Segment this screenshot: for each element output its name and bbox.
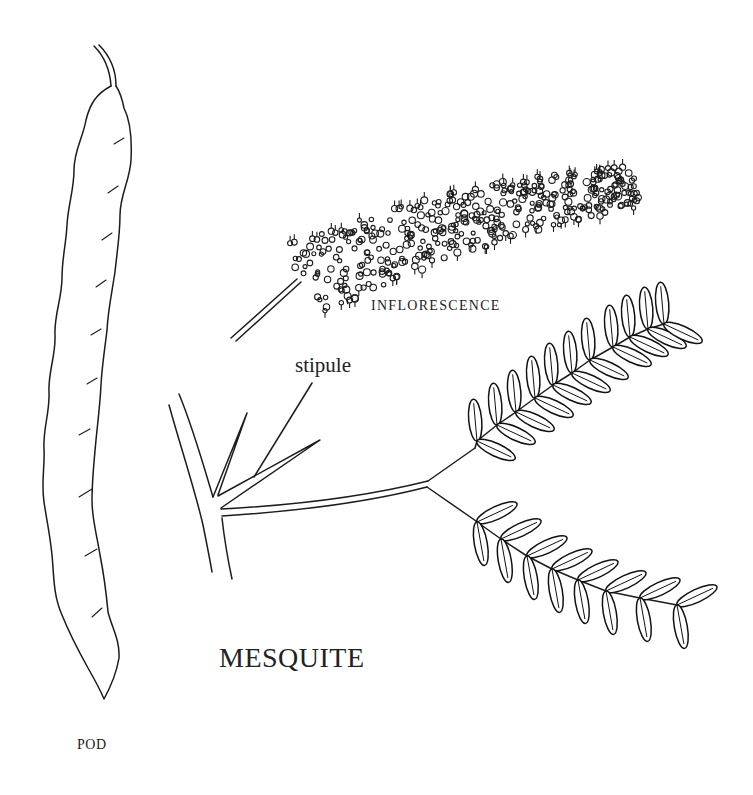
floret [343,276,348,281]
floret [301,271,306,276]
floret [456,213,461,218]
floret [307,260,313,266]
floret [323,295,327,299]
floret [472,186,478,192]
floret [324,276,330,282]
floret [352,246,357,251]
floret [487,206,494,213]
floret [541,216,545,220]
floret [328,266,334,272]
floret [347,240,351,244]
floret [326,246,331,251]
floret [625,170,632,177]
floret [497,235,502,240]
floret [409,217,415,223]
floret [317,245,322,250]
inflorescence-label: INFLORESCENCE [371,298,501,314]
floret [312,252,316,256]
floret [471,231,475,235]
branch-left-edge [169,405,212,572]
floret [397,246,403,252]
floret [562,182,568,188]
pod-label: POD [77,737,107,753]
inflorescence-stalk-left [231,279,297,338]
pod-stem-left [94,46,111,86]
branch-right-edge-lower [222,518,232,579]
floret [473,203,479,209]
lower-pinna-drawing [471,498,720,650]
floret [402,220,406,224]
floret [429,216,435,222]
floret [429,258,434,263]
floret [378,257,384,263]
petiole-lower-edge [222,487,427,516]
floret [369,255,374,260]
floret [584,195,591,202]
floret [338,259,342,263]
floret [377,246,382,251]
floret [632,206,636,210]
branch-right-edge-upper [179,394,213,497]
stipule-1 [213,413,247,497]
floret [322,237,328,243]
floret [392,262,398,268]
page-title: MESQUITE [219,642,365,674]
rachis-fork-down [427,487,476,521]
floret [551,223,555,227]
floret [484,217,490,223]
floret [441,255,447,261]
rachis-fork-up [428,448,475,481]
floret [500,199,507,206]
floret [535,205,541,211]
floret [600,188,604,192]
inflorescence-stalk-right [236,282,301,341]
floret [459,232,464,237]
inflorescence-florets [288,159,642,318]
mesquite-illustration: INFLORESCENCE stipule MESQUITE POD [0,0,753,795]
floret [562,194,568,200]
floret [532,183,537,188]
floret [549,177,555,183]
floret [427,244,432,249]
floret [442,241,447,246]
stipule-label: stipule [295,353,351,378]
stipule-pointer [254,383,312,477]
floret [412,263,418,269]
petiole-upper-edge [221,481,428,509]
floret [483,223,489,229]
pod-drawing [43,45,131,699]
floret [454,249,461,256]
twig-drawing [169,383,476,579]
floret [390,248,396,254]
floret [588,213,594,219]
floret [363,269,370,276]
floret [338,278,344,284]
floret [530,209,534,213]
floret [365,258,371,264]
upper-pinna-drawing [467,282,705,465]
floret [415,222,421,228]
floret [419,266,426,273]
floret [428,209,435,216]
floret [388,218,393,223]
floret [369,217,373,221]
floret [399,225,406,232]
floret [503,231,508,236]
drawing-canvas [0,0,753,795]
floret [583,179,590,186]
floret [560,188,565,193]
floret [499,212,504,217]
floret [371,225,375,229]
floret [329,237,335,243]
pod-outline [43,86,131,699]
floret [319,232,324,237]
floret [303,265,307,269]
floret [300,250,306,256]
floret [366,282,371,287]
floret [436,241,440,245]
floret [543,200,549,206]
floret [442,208,449,215]
floret [456,218,460,222]
floret [485,198,491,204]
floret [421,239,425,243]
